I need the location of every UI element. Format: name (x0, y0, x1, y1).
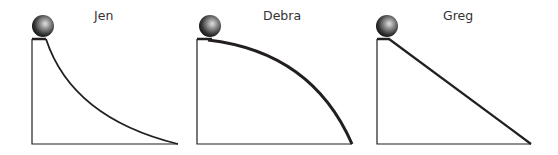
debra-panel (197, 15, 352, 144)
greg-label: Greg (443, 8, 473, 23)
jen-panel (32, 15, 178, 144)
debra-ramp-frame (197, 39, 352, 144)
jen-concave-ramp (46, 39, 178, 144)
jen-ramp-frame (32, 39, 178, 144)
greg-straight-ramp (389, 39, 531, 144)
debra-convex-ramp (208, 40, 352, 144)
jen-label: Jen (94, 8, 113, 23)
debra-ball (199, 15, 221, 37)
debra-label: Debra (263, 8, 301, 23)
greg-panel (376, 15, 531, 144)
jen-ball (32, 15, 54, 37)
greg-ball (376, 15, 398, 37)
ramps-diagram (0, 0, 558, 155)
